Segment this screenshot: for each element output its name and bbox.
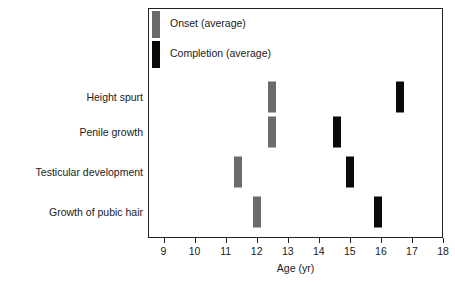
x-tick-label-11: 11 [220,245,231,258]
x-tick-label-16: 16 [375,245,387,258]
x-tick-9 [164,238,165,243]
legend-label-onset: Onset (average) [170,17,246,29]
x-tick-label-13: 13 [282,245,294,258]
legend-label-completion: Completion (average) [170,47,271,59]
x-tick-11 [226,238,227,243]
x-tick-label-14: 14 [313,245,325,258]
category-label-growth-of-pubic-hair: Growth of pubic hair [0,206,143,218]
x-tick-18 [443,238,444,243]
x-tick-15 [350,238,351,243]
x-tick-label-12: 12 [251,245,263,258]
legend-item-completion: Completion (average) [152,40,332,70]
x-axis-ticks [148,238,443,244]
puberty-timeline-chart: Onset (average) Completion (average) Hei… [0,0,455,282]
x-tick-16 [381,238,382,243]
chart-legend: Onset (average) Completion (average) [152,10,332,70]
x-tick-13 [288,238,289,243]
onset-swatch-icon [152,11,160,38]
x-tick-14 [319,238,320,243]
category-label-testicular-development: Testicular development [0,166,143,178]
legend-item-onset: Onset (average) [152,10,332,40]
x-tick-12 [257,238,258,243]
x-tick-label-10: 10 [189,245,201,258]
x-tick-17 [412,238,413,243]
category-label-penile-growth: Penile growth [0,126,143,138]
category-label-height-spurt: Height spurt [0,91,143,103]
completion-swatch-icon [152,41,160,68]
x-tick-label-15: 15 [344,245,356,258]
category-axis-labels: Height spurt Penile growth Testicular de… [0,0,143,282]
x-axis-tick-labels: 9101112131415161718 [148,245,443,259]
x-tick-10 [195,238,196,243]
x-tick-label-18: 18 [437,245,449,258]
x-tick-label-9: 9 [161,245,167,258]
x-tick-label-17: 17 [406,245,418,258]
x-axis-title: Age (yr) [148,262,443,275]
